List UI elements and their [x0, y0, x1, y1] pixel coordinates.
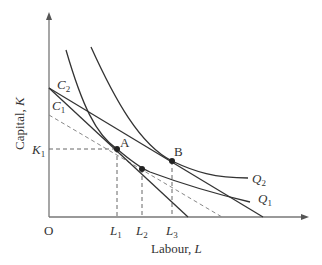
- l3-tick-label: L3: [165, 223, 178, 240]
- origin-label: O: [44, 223, 53, 238]
- y-axis-arrow-icon: [46, 12, 52, 20]
- isocost-c2-label: C2: [57, 77, 70, 94]
- guide-lines: [49, 115, 222, 217]
- point-b-label: B: [174, 144, 183, 159]
- isocost-c1-steep: [49, 88, 188, 217]
- isoquant-diagram: A B C2 C1 Q2 Q1 K1 O L1 L2 L3 Labour, L: [0, 0, 322, 265]
- point-l2: [139, 166, 145, 172]
- point-a-label: A: [120, 135, 130, 150]
- isoquant-q1-label: Q1: [258, 191, 272, 208]
- isoquant-q2: [91, 47, 248, 178]
- k1-tick-label: K1: [31, 142, 45, 159]
- y-axis-label: Capital, K: [12, 96, 27, 150]
- x-axis-label: Labour, L: [151, 241, 202, 256]
- l2-tick-label: L2: [135, 223, 148, 240]
- isoquant-q2-label: Q2: [252, 171, 266, 188]
- x-axis-arrow-icon: [301, 214, 309, 220]
- isocost-c1-dashed: [49, 115, 222, 217]
- axes: [46, 12, 309, 220]
- l1-tick-label: L1: [109, 223, 122, 240]
